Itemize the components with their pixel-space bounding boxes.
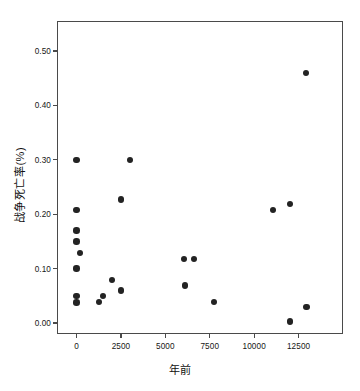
x-tick-mark xyxy=(76,334,77,338)
plot-area-frame xyxy=(57,21,343,334)
x-axis-label: 年前 xyxy=(0,361,360,377)
x-tick-mark xyxy=(209,334,210,338)
x-tick-mark xyxy=(120,334,121,338)
x-tick-mark xyxy=(165,334,166,338)
y-tick-label: 0.00 xyxy=(35,319,51,328)
x-tick-label: 0 xyxy=(74,342,79,351)
x-tick-mark xyxy=(254,334,255,338)
x-tick-label: 12500 xyxy=(287,342,310,351)
y-tick-label: 0.20 xyxy=(35,210,51,219)
x-tick-label: 7500 xyxy=(200,342,219,351)
x-tick-mark xyxy=(298,334,299,338)
x-tick-label: 2500 xyxy=(112,342,131,351)
y-tick-label: 0.30 xyxy=(35,155,51,164)
scatter-chart-figure: 0.000.100.200.300.400.50 025005000750010… xyxy=(0,0,360,391)
y-tick-label: 0.40 xyxy=(35,101,51,110)
y-tick-label: 0.50 xyxy=(35,46,51,55)
y-axis-label: 战争死亡率(%) xyxy=(11,105,27,265)
y-tick-label: 0.10 xyxy=(35,264,51,273)
x-tick-label: 5000 xyxy=(156,342,175,351)
x-tick-label: 10000 xyxy=(243,342,266,351)
